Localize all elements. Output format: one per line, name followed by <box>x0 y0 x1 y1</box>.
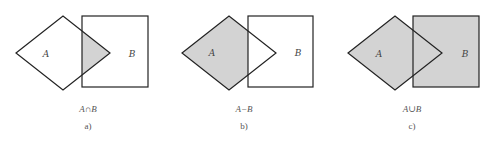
intersection-shading <box>16 16 110 90</box>
set-b-square <box>248 16 313 87</box>
panel-a-set-b-label: B <box>129 49 136 59</box>
panel-c-sublabel: c) <box>409 121 416 131</box>
panel-a-expression: A∩B <box>79 104 97 114</box>
panel-b-sublabel: b) <box>240 121 248 131</box>
panel-c-set-b-label: B <box>462 49 469 59</box>
panel-b-set-b-label: B <box>295 48 302 58</box>
panel-c-expression: A∪B <box>403 104 422 114</box>
panel-a-set-a-label: A <box>43 49 50 59</box>
panel-c-union <box>348 16 479 90</box>
panel-c-set-a-label: A <box>376 49 383 59</box>
panel-a-sublabel: a) <box>85 121 92 131</box>
difference-shading <box>182 16 276 90</box>
panel-b-expression: A−B <box>235 104 252 114</box>
panel-b-set-a-label: A <box>209 48 216 58</box>
panel-b-difference <box>182 16 313 90</box>
